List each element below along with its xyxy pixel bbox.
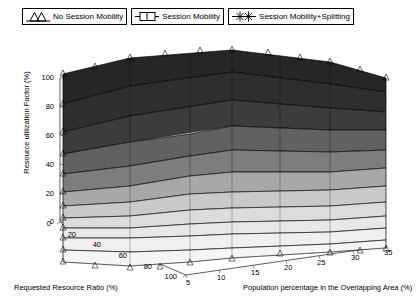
y-tick-35: 35 [384, 248, 392, 257]
surface-chart: No Session Mobility Session Mobility [0, 0, 419, 307]
x-axis-title: Requested Resource Ratio (%) [14, 283, 118, 292]
x-tick-80: 80 [121, 262, 152, 271]
x-tick-0: 0 [20, 219, 51, 228]
y-tick-20: 20 [284, 263, 292, 272]
y-tick-10: 10 [217, 273, 225, 282]
y-tick-25: 25 [317, 258, 325, 267]
x-tick-100: 100 [146, 272, 177, 281]
y-axis-title: Population percentage in the Overlapping… [243, 283, 412, 292]
x-tick-60: 60 [96, 251, 127, 260]
z-axis-title: Resource utilization Factor (%) [22, 53, 31, 193]
y-tick-30: 30 [351, 253, 359, 262]
x-tick-40: 40 [70, 240, 101, 249]
y-tick-5: 5 [186, 278, 190, 287]
x-tick-20: 20 [45, 230, 76, 239]
y-tick-15: 15 [251, 268, 259, 277]
